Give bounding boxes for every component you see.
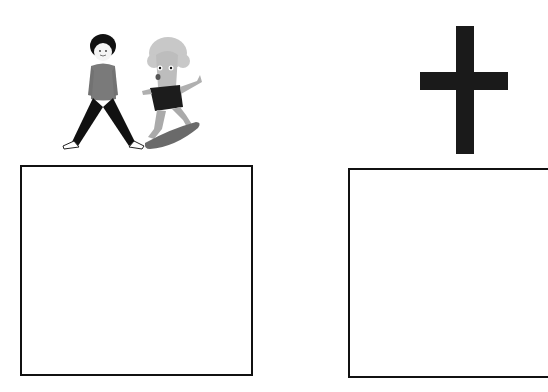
two-characters-icon (50, 25, 215, 160)
answer-box-right[interactable] (348, 168, 548, 378)
skater-figure (142, 37, 202, 149)
boy-figure (63, 34, 144, 149)
two-characters-illustration (50, 25, 215, 160)
cross-illustration (419, 24, 509, 156)
answer-box-left[interactable] (20, 165, 253, 376)
cross-icon (419, 24, 509, 156)
